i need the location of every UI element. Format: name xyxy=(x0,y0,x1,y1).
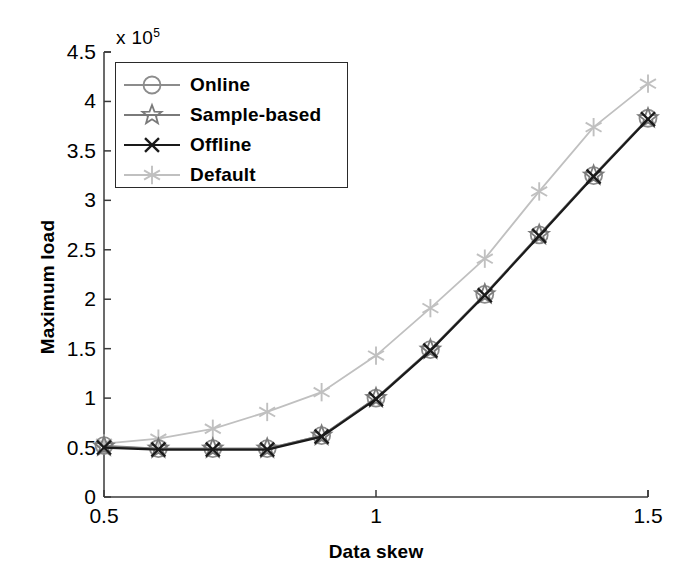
legend-item-offline[interactable]: Offline xyxy=(116,129,349,160)
data-point-asterisk-marker xyxy=(314,383,330,401)
legend-item-default[interactable]: Default xyxy=(116,159,349,190)
legend-label: Default xyxy=(190,164,256,186)
data-point-asterisk-marker xyxy=(368,346,384,364)
data-point-asterisk-marker xyxy=(259,403,275,421)
data-point-asterisk-marker xyxy=(422,299,438,317)
legend-item-online[interactable]: Online xyxy=(116,69,349,100)
legend-marker-asterisk-icon xyxy=(116,160,190,190)
legend-marker-x-icon xyxy=(116,130,190,160)
data-point-asterisk-marker xyxy=(205,420,221,438)
legend-item-sample-based[interactable]: Sample-based xyxy=(116,99,349,130)
legend-marker-pentagram-icon xyxy=(116,100,190,130)
legend-label: Sample-based xyxy=(190,104,321,126)
legend-marker-circle-icon xyxy=(116,70,190,100)
data-point-pentagram-marker xyxy=(142,104,161,122)
legend-label: Online xyxy=(190,74,250,96)
data-point-asterisk-marker xyxy=(640,74,656,92)
legend: OnlineSample-basedOfflineDefault xyxy=(115,62,348,188)
chart-figure: x 105 00.511.522.533.544.5 0.511.5 Maxim… xyxy=(0,0,697,586)
legend-label: Offline xyxy=(190,134,252,156)
